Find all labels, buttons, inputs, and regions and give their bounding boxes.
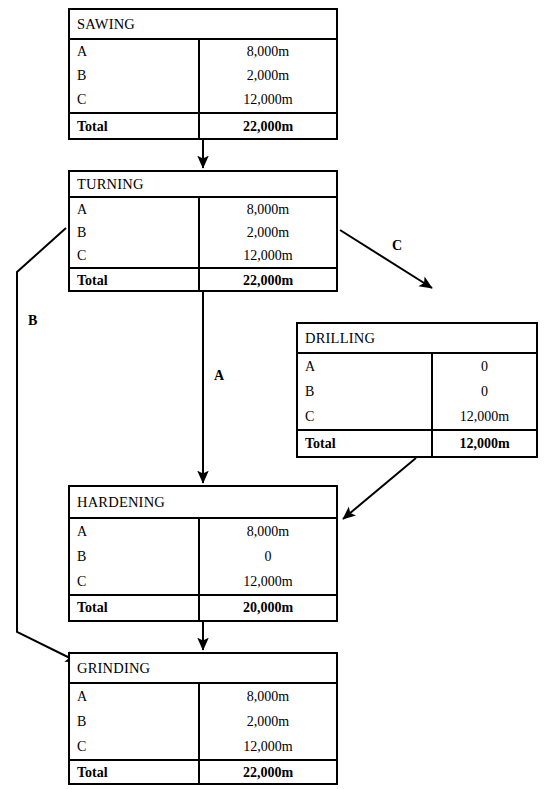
arrow-drilling-to-hardening: [343, 458, 416, 519]
total-label: Total: [70, 596, 200, 620]
table-drilling-header: DRILLING: [298, 324, 536, 354]
total-value: 22,000m: [200, 269, 336, 292]
row-label: A: [70, 684, 200, 709]
process-flow-diagram: SAWING A 8,000m B 2,000m C 12,000m Total…: [0, 0, 551, 789]
table-row: B 2,000m: [70, 64, 336, 88]
total-label: Total: [70, 269, 200, 292]
table-row: C 12,000m: [70, 734, 336, 759]
table-total-row: Total 22,000m: [70, 112, 336, 140]
row-value: 12,000m: [200, 88, 336, 112]
row-value: 2,000m: [200, 709, 336, 734]
row-label: C: [70, 734, 200, 759]
row-label: A: [70, 198, 200, 221]
row-value: 0: [200, 544, 336, 569]
total-value: 22,000m: [200, 761, 336, 785]
table-row: B 2,000m: [70, 709, 336, 734]
row-value: 8,000m: [200, 684, 336, 709]
table-turning: TURNING A 8,000m B 2,000m C 12,000m Tota…: [68, 170, 338, 292]
table-grinding-header: GRINDING: [70, 654, 336, 684]
total-value: 22,000m: [200, 114, 336, 140]
table-row: A 8,000m: [70, 684, 336, 709]
table-total-row: Total 20,000m: [70, 594, 336, 620]
table-row: B 0: [70, 544, 336, 569]
row-label: A: [70, 40, 200, 64]
row-value: 0: [433, 354, 536, 379]
table-total-row: Total 12,000m: [298, 429, 536, 456]
table-sawing-header: SAWING: [70, 10, 336, 40]
row-label: B: [70, 64, 200, 88]
table-grinding-body: A 8,000m B 2,000m C 12,000m Total 22,000…: [70, 684, 336, 785]
table-sawing-body: A 8,000m B 2,000m C 12,000m Total 22,000…: [70, 40, 336, 140]
table-hardening-title: HARDENING: [77, 494, 165, 511]
table-drilling-title: DRILLING: [305, 330, 375, 347]
table-row: B 2,000m: [70, 221, 336, 244]
connector-label-c: C: [392, 238, 402, 254]
table-row: A 8,000m: [70, 40, 336, 64]
row-value: 2,000m: [200, 64, 336, 88]
table-turning-title: TURNING: [77, 176, 144, 193]
table-hardening-header: HARDENING: [70, 487, 336, 519]
table-drilling-body: A 0 B 0 C 12,000m Total 12,000m: [298, 354, 536, 456]
table-hardening: HARDENING A 8,000m B 0 C 12,000m Total 2…: [68, 485, 338, 622]
row-value: 8,000m: [200, 198, 336, 221]
row-value: 2,000m: [200, 221, 336, 244]
connector-label-a: A: [214, 368, 224, 384]
table-total-row: Total 22,000m: [70, 759, 336, 785]
table-turning-body: A 8,000m B 2,000m C 12,000m Total 22,000…: [70, 198, 336, 292]
table-row: A 8,000m: [70, 198, 336, 221]
row-label: A: [70, 519, 200, 544]
row-label: C: [298, 404, 433, 429]
table-row: C 12,000m: [70, 244, 336, 267]
row-label: C: [70, 88, 200, 112]
row-value: 12,000m: [200, 244, 336, 267]
row-label: B: [70, 709, 200, 734]
total-label: Total: [70, 114, 200, 140]
table-row: C 12,000m: [298, 404, 536, 429]
row-value: 12,000m: [433, 404, 536, 429]
total-label: Total: [298, 431, 433, 456]
table-sawing-title: SAWING: [77, 16, 135, 33]
row-value: 12,000m: [200, 569, 336, 594]
total-value: 20,000m: [200, 596, 336, 620]
total-label: Total: [70, 761, 200, 785]
row-label: A: [298, 354, 433, 379]
row-label: B: [298, 379, 433, 404]
row-label: B: [70, 544, 200, 569]
table-sawing: SAWING A 8,000m B 2,000m C 12,000m Total…: [68, 8, 338, 140]
table-row: A 0: [298, 354, 536, 379]
row-value: 0: [433, 379, 536, 404]
table-drilling: DRILLING A 0 B 0 C 12,000m Total 12,000m: [296, 322, 538, 458]
table-row: B 0: [298, 379, 536, 404]
table-row: C 12,000m: [70, 88, 336, 112]
arrow-turning-to-drilling: [340, 230, 432, 288]
row-label: B: [70, 221, 200, 244]
table-total-row: Total 22,000m: [70, 267, 336, 292]
table-row: A 8,000m: [70, 519, 336, 544]
table-hardening-body: A 8,000m B 0 C 12,000m Total 20,000m: [70, 519, 336, 620]
row-label: C: [70, 244, 200, 267]
table-turning-header: TURNING: [70, 172, 336, 198]
table-row: C 12,000m: [70, 569, 336, 594]
row-value: 12,000m: [200, 734, 336, 759]
row-value: 8,000m: [200, 519, 336, 544]
total-value: 12,000m: [433, 431, 536, 456]
row-label: C: [70, 569, 200, 594]
table-grinding-title: GRINDING: [77, 660, 150, 677]
table-grinding: GRINDING A 8,000m B 2,000m C 12,000m Tot…: [68, 652, 338, 785]
connector-label-b: B: [28, 313, 37, 329]
row-value: 8,000m: [200, 40, 336, 64]
